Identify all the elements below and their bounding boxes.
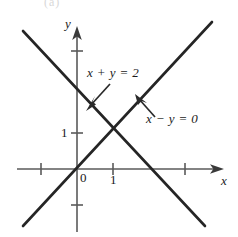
y-axis-label: y (65, 17, 71, 30)
x-axis-label: x (221, 174, 227, 187)
equation-label-line2: x − y = 0 (146, 112, 198, 125)
coordinate-plot-svg (0, 0, 238, 237)
equation-label-line1: x + y = 2 (87, 66, 139, 79)
y-axis-tick-label-1: 1 (61, 126, 68, 139)
origin-label: 0 (80, 171, 87, 184)
graph-figure: (a) (0, 0, 238, 237)
x-axis-tick-label-1: 1 (110, 173, 117, 186)
